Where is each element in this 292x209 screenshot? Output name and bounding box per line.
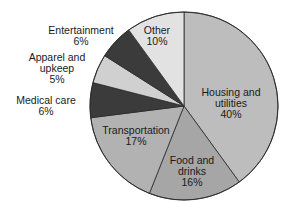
pie-chart: Housing andutilities40%Food anddrinks16%… — [0, 0, 292, 209]
slice-label-other: Other10% — [144, 24, 171, 47]
slice-label-entertainment: Entertainment6% — [48, 24, 113, 47]
slice-percent: 6% — [38, 105, 53, 117]
pie-chart-canvas: Housing andutilities40%Food anddrinks16%… — [0, 0, 292, 209]
slice-percent: 17% — [125, 135, 146, 147]
slice-percent: 16% — [181, 176, 202, 188]
slice-percent: 10% — [146, 35, 167, 47]
slice-label-medical-care: Medical care6% — [16, 94, 76, 117]
slice-percent: 5% — [49, 73, 64, 85]
slice-label-apparel-and-upkeep: Apparel andupkeep5% — [29, 51, 86, 85]
slice-percent: 40% — [220, 108, 241, 120]
slice-percent: 6% — [73, 35, 88, 47]
